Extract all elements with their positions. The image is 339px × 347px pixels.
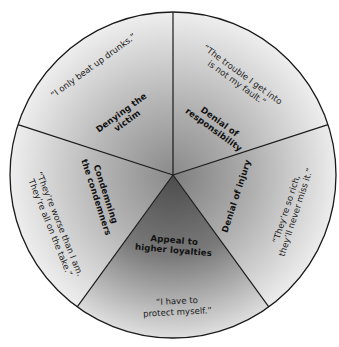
neutralization-wheel-diagram: “The trouble I get into is not my fault.… — [0, 0, 339, 347]
